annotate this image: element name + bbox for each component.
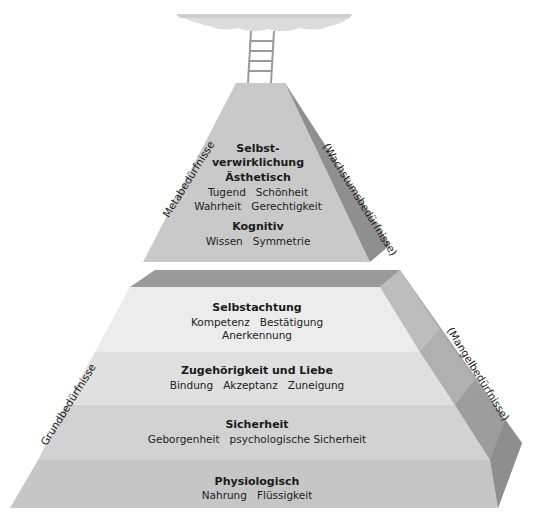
level-items-selbstachtung-row2: Anerkennung	[217, 330, 297, 341]
level-items-kognitiv: WissenSymmetrie	[201, 236, 316, 247]
level-items-aesthetisch-row2: WahrheitGerechtigkeit	[189, 201, 327, 212]
level-items-sicherheit: Geborgenheitpsychologische Sicherheit	[143, 434, 371, 445]
level-title-kognitiv: Kognitiv	[232, 221, 284, 232]
ladder-icon	[248, 31, 274, 83]
level-items-selbstachtung-row1: KompetenzBestätigung	[186, 317, 328, 328]
level-title-physiologisch: Physiologisch	[215, 476, 300, 487]
level-title-sicherheit: Sicherheit	[225, 419, 288, 430]
level-title-selbstachtung: Selbstachtung	[212, 302, 301, 313]
level-title-zugehoerigkeit: Zugehörigkeit und Liebe	[181, 365, 333, 376]
cloud-icon	[176, 14, 352, 31]
level-title-selbstverwirklichung: Selbst- verwirklichung	[212, 143, 304, 168]
level-items-zugehoerigkeit: BindungAkzeptanzZuneigung	[165, 380, 350, 391]
level-title-aesthetisch: Ästhetisch	[225, 172, 291, 183]
level-items-physiologisch: NahrungFlüssigkeit	[197, 490, 318, 501]
level-items-aesthetisch-row1: TugendSchönheit	[203, 187, 313, 198]
